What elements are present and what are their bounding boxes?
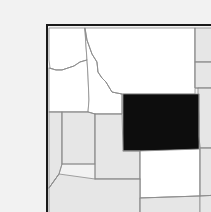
state-az: [49, 174, 140, 212]
states-layer: [49, 28, 211, 212]
map-canvas: [40, 16, 211, 212]
screenshot-root: Locator map of the western United States…: [0, 0, 211, 212]
state-highlight-wy: [123, 94, 199, 151]
state-nv: [62, 112, 95, 164]
state-sd: [195, 62, 211, 88]
state-co: [140, 149, 200, 198]
state-ks: [200, 148, 211, 196]
locator-map-figure: Locator map of the western United States…: [40, 16, 211, 212]
state-ne: [198, 88, 211, 148]
state-nm: [140, 196, 200, 212]
state-nd: [195, 28, 211, 62]
state-ok: [200, 194, 211, 212]
